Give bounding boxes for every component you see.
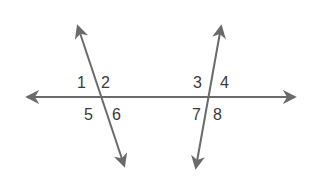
angle-diagram: 1 2 5 6 3 4 7 8 — [0, 0, 309, 179]
angle-label-5: 5 — [84, 106, 93, 123]
angle-label-7: 7 — [192, 106, 201, 123]
angle-label-4: 4 — [220, 74, 229, 91]
angle-label-6: 6 — [112, 106, 121, 123]
angle-label-3: 3 — [193, 74, 202, 91]
angle-label-1: 1 — [77, 74, 86, 91]
angle-label-2: 2 — [101, 74, 110, 91]
angle-label-8: 8 — [213, 106, 222, 123]
